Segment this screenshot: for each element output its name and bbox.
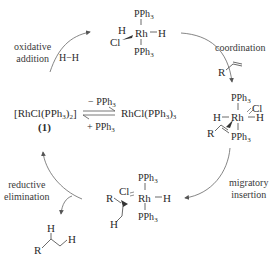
migratory-insertion-arrow xyxy=(185,148,230,198)
hydride-right: H xyxy=(158,27,166,39)
ligand-pph3-top: PPh3 xyxy=(138,172,158,183)
ligand-pph3-bottom: PPh3 xyxy=(138,211,158,222)
product-h1: H xyxy=(47,222,55,234)
ligand-pph3-top: PPh3 xyxy=(134,8,154,19)
chain-h: H xyxy=(110,218,118,230)
product-r: R xyxy=(34,244,41,256)
catalyst-formula: [RhCl(PPh3)2] xyxy=(14,107,77,119)
ligand-pph3-bottom: PPh3 xyxy=(134,46,154,57)
hydride-left: H xyxy=(118,24,126,36)
step-label-reductive-elimination: reductive elimination xyxy=(4,179,50,203)
ligand-pph3-top: PPh3 xyxy=(231,92,251,103)
alkene-r: R xyxy=(207,127,214,139)
equilibrium-minus-pph3: − PPh3 xyxy=(88,96,116,107)
product-h2: H xyxy=(68,233,76,245)
alkyl-r: R xyxy=(106,192,113,204)
metal-rh: Rh xyxy=(138,192,151,204)
precursor-formula: RhCl(PPh3)3 xyxy=(121,107,176,119)
ligand-pph3-bottom: PPh3 xyxy=(231,131,251,142)
catalytic-cycle-diagram: oxidative addition H−H coordination migr… xyxy=(0,0,278,257)
step-label-migratory-insertion: migratory insertion xyxy=(229,177,268,201)
product-release-arrow xyxy=(61,196,72,214)
substrate-r: R xyxy=(218,66,225,78)
metal-rh: Rh xyxy=(135,27,148,39)
reagent-h2: H−H xyxy=(59,52,79,63)
step-label-coordination: coordination xyxy=(215,42,266,54)
hydride-right: H xyxy=(256,111,264,123)
hydride-left: H xyxy=(213,111,221,123)
equilibrium-plus-pph3: + PPh3 xyxy=(87,121,115,132)
metal-rh: Rh xyxy=(231,111,244,123)
hydride-right: H xyxy=(163,192,171,204)
step-label-oxidative-addition: oxidative addition xyxy=(14,41,51,65)
chloride: Cl xyxy=(110,36,120,48)
chloride: Cl xyxy=(119,185,129,197)
catalyst-number: (1) xyxy=(38,121,51,133)
